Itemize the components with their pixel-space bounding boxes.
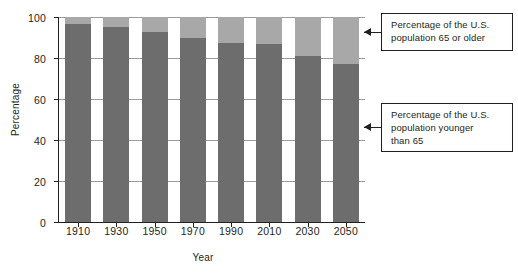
bar-1990 — [218, 17, 244, 222]
bar-segment-younger-2010 — [256, 44, 282, 222]
bar-segment-younger-2050 — [333, 64, 359, 222]
bar-2050 — [333, 17, 359, 222]
y-axis-tick-label: 60 — [34, 94, 46, 106]
bar-1970 — [180, 17, 206, 222]
bar-segment-older-1930 — [103, 17, 129, 27]
y-axis-tick-label: 40 — [34, 135, 46, 147]
bar-segment-younger-2030 — [295, 56, 321, 222]
x-axis-tick-mark — [231, 222, 232, 227]
x-axis-tick-mark — [116, 222, 117, 227]
x-axis-tick-mark — [78, 222, 79, 227]
annotation-older-box: Percentage of the U.S. population 65 or … — [381, 13, 513, 51]
x-axis-tick-mark — [269, 222, 270, 227]
y-axis-tick-mark: 40 — [54, 140, 59, 141]
annotation-younger-line-2: population younger — [391, 122, 504, 135]
x-axis-tick-mark — [346, 222, 347, 227]
bar-segment-older-1970 — [180, 17, 206, 38]
bar-1950 — [142, 17, 168, 222]
bar-2010 — [256, 17, 282, 222]
annotation-older-line-1: Percentage of the U.S. — [391, 19, 504, 32]
annotation-older-line-2: population 65 or older — [391, 32, 504, 45]
bar-segment-younger-1990 — [218, 43, 244, 222]
callout-arrow-older-icon — [364, 28, 371, 36]
y-axis-tick-label: 20 — [34, 176, 46, 188]
bar-segment-older-1950 — [142, 17, 168, 32]
annotation-younger-box: Percentage of the U.S. population younge… — [381, 103, 513, 152]
y-axis-tick-mark: 20 — [54, 181, 59, 182]
bar-segment-older-1910 — [65, 17, 91, 24]
bar-segment-older-2030 — [295, 17, 321, 56]
plot-area: 020406080100 191019301950197019902010203… — [58, 17, 365, 223]
y-axis-tick-label: 0 — [40, 217, 46, 229]
annotation-younger-line-1: Percentage of the U.S. — [391, 109, 504, 122]
chart-figure: Percentage Year 020406080100 19101930195… — [0, 0, 518, 276]
y-axis-title: Percentage — [10, 65, 21, 155]
bar-segment-younger-1950 — [142, 32, 168, 222]
y-axis-tick-mark: 0 — [54, 222, 59, 223]
y-axis-tick-label: 100 — [28, 12, 46, 24]
y-axis-tick-mark: 60 — [54, 99, 59, 100]
x-axis-tick-mark — [308, 222, 309, 227]
y-axis-tick-label: 80 — [34, 53, 46, 65]
bar-segment-younger-1970 — [180, 38, 206, 223]
bar-segment-younger-1930 — [103, 27, 129, 222]
annotation-younger-line-3: than 65 — [391, 135, 504, 148]
x-axis-title: Year — [38, 252, 368, 263]
bar-segment-older-2050 — [333, 17, 359, 64]
bar-2030 — [295, 17, 321, 222]
bar-segment-older-1990 — [218, 17, 244, 43]
bar-segment-younger-1910 — [65, 24, 91, 222]
callout-arrow-younger-icon — [364, 123, 371, 131]
x-axis-tick-mark — [193, 222, 194, 227]
x-axis-tick-mark — [155, 222, 156, 227]
bar-series-group — [59, 17, 365, 222]
bar-segment-older-2010 — [256, 17, 282, 44]
bar-1910 — [65, 17, 91, 222]
y-axis-tick-mark: 100 — [54, 17, 59, 18]
y-axis-tick-mark: 80 — [54, 58, 59, 59]
bar-1930 — [103, 17, 129, 222]
